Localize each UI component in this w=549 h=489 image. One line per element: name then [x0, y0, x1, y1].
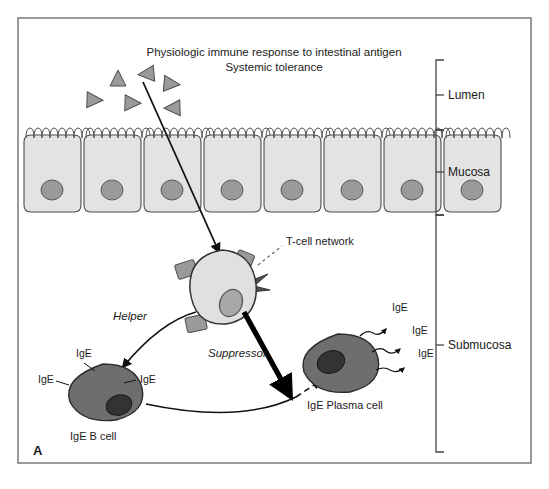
epithelial-nucleus [101, 180, 123, 200]
t-cell-network-label: T-cell network [286, 235, 354, 247]
antigen-group [87, 65, 181, 116]
antigen-triangle [87, 92, 104, 109]
b-cell-ige-label: IgE [76, 347, 92, 359]
plasma-cell-caption: IgE Plasma cell [307, 399, 383, 411]
immunology-diagram-figure: Physiologic immune response to intestina… [0, 0, 549, 489]
epithelial-cell [324, 128, 390, 212]
epithelial-nucleus [341, 180, 363, 200]
epithelial-cell [384, 128, 450, 212]
epithelial-cell [264, 128, 330, 212]
differentiation-path [146, 397, 296, 413]
secreted-ige-label: IgE [418, 347, 434, 359]
epithelium-layer [24, 128, 510, 212]
epithelial-nucleus [401, 180, 423, 200]
antigen-triangle [110, 70, 126, 86]
panel-letter: A [33, 443, 43, 458]
figure-title-line-2: Systemic tolerance [225, 61, 322, 73]
antigen-triangle [163, 75, 180, 92]
epithelial-nucleus [161, 180, 183, 200]
antigen-triangle [125, 95, 142, 112]
epithelial-cell [204, 128, 270, 212]
diagram-canvas: Physiologic immune response to intestina… [0, 0, 549, 489]
b-cell-ige-label: IgE [140, 373, 156, 385]
t-cell [174, 250, 270, 333]
antigen-triangle [164, 100, 181, 117]
ige-b-cell [69, 364, 143, 421]
b-cell-ige-leader [56, 381, 69, 385]
ige-plasma-cell [303, 334, 379, 392]
secreted-ige-label: IgE [392, 301, 408, 313]
epithelial-cell [24, 128, 90, 212]
b-cell-ige-label: IgE [38, 373, 54, 385]
suppressor-label: Suppressor [208, 347, 268, 359]
mucosa-label: Mucosa [448, 165, 490, 179]
secreted-ige-arrow [360, 329, 386, 336]
antigen-triangle [137, 65, 154, 82]
epithelial-nucleus [461, 180, 483, 200]
layer-brackets: Lumen Mucosa Submucosa [436, 60, 512, 452]
epithelial-cell [84, 128, 150, 212]
b-cell-caption: IgE B cell [70, 430, 116, 442]
submucosa-bracket [436, 215, 444, 452]
secreted-ige-label: IgE [412, 324, 428, 336]
lumen-label: Lumen [448, 88, 485, 102]
secreted-ige-arrow [376, 368, 404, 372]
b-cell-body [69, 364, 143, 421]
epithelial-nucleus [221, 180, 243, 200]
figure-title-line-1: Physiologic immune response to intestina… [146, 46, 401, 58]
t-cell-network-leader [258, 246, 282, 265]
epithelial-cell [144, 128, 210, 212]
helper-label: Helper [113, 310, 148, 322]
epithelial-nucleus [41, 180, 63, 200]
epithelial-nucleus [281, 180, 303, 200]
submucosa-label: Submucosa [448, 338, 512, 352]
